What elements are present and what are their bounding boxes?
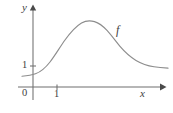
y-axis-tick-label-one: 1 [22, 60, 27, 71]
function-graph-figure: y x 0 1 1 f [0, 0, 173, 113]
x-axis-tick-label-one: 1 [54, 89, 59, 100]
x-axis-label: x [140, 88, 145, 99]
y-axis-label: y [22, 2, 27, 13]
function-name-label: f [116, 24, 119, 36]
x-axis-arrowhead [160, 84, 167, 91]
y-axis-arrowhead [30, 5, 36, 11]
function-curve-f [22, 21, 168, 76]
origin-label: 0 [22, 88, 27, 99]
